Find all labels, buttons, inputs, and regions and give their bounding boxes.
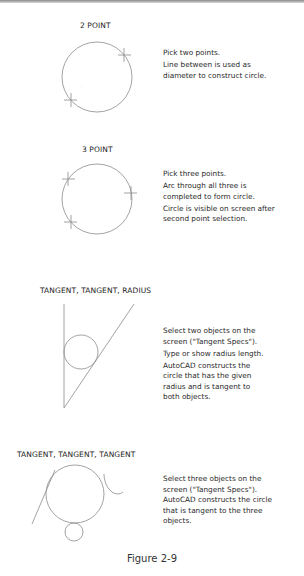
tangent-arc	[104, 474, 123, 494]
small-tangent-circle	[65, 523, 83, 541]
description-line: Line between is used as diameter to cons…	[163, 60, 275, 81]
tangent-tangent-tangent-diagram	[32, 465, 123, 541]
description-line: Arc through all three is completed to fo…	[163, 181, 263, 202]
tangent-line	[64, 304, 134, 408]
tangent-circle	[64, 335, 98, 369]
figure-caption: Figure 2-9	[0, 553, 304, 564]
section-description: Select three objects on the screen ("Tan…	[163, 474, 303, 528]
three-point-diagram	[62, 164, 137, 234]
three-point-circle	[62, 164, 132, 234]
description-line: Select three objects on the screen ("Tan…	[163, 474, 281, 527]
point-marker-icon	[64, 93, 77, 107]
two-point-diagram	[62, 42, 132, 112]
two-point-circle	[62, 42, 132, 112]
description-line: Pick two points.	[163, 48, 303, 59]
description-line: AutoCAD constructs the circle that has t…	[163, 361, 263, 403]
section-description: Select two objects on the screen ("Tange…	[163, 326, 303, 404]
section-description: Pick two points. Line between is used as…	[163, 48, 303, 83]
description-line: Circle is visible on screen after second…	[163, 204, 278, 225]
tangent-tangent-radius-diagram	[64, 304, 134, 408]
tangent-circle	[46, 465, 104, 523]
description-line: Pick three points.	[163, 169, 303, 180]
section-title: 2 POINT	[80, 21, 111, 30]
point-marker-icon	[64, 215, 77, 229]
section-description: Pick three points. Arc through all three…	[163, 169, 303, 226]
description-line: Select two objects on the screen ("Tange…	[163, 326, 273, 347]
section-title: 3 POINT	[82, 145, 113, 154]
section-title: TANGENT, TANGENT, TANGENT	[17, 450, 135, 459]
description-line: Type or show radius length.	[163, 349, 288, 360]
tangent-line	[32, 470, 55, 524]
point-marker-icon	[62, 172, 75, 186]
section-title: TANGENT, TANGENT, RADIUS	[40, 286, 151, 295]
